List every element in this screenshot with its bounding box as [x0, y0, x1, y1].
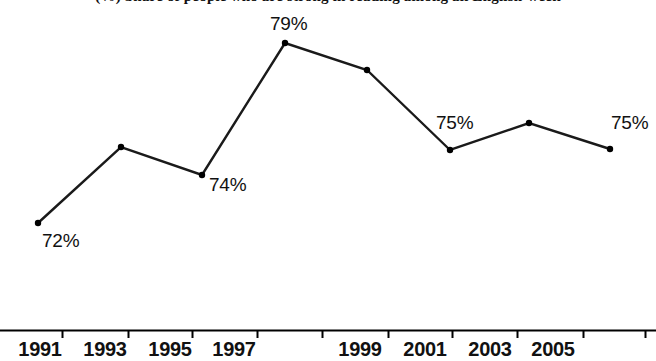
x-tick-label-1997: 1997	[194, 338, 274, 361]
data-point-marker	[199, 172, 205, 178]
x-tick-label-2005: 2005	[513, 338, 593, 361]
data-point-marker	[282, 40, 288, 46]
data-line	[38, 43, 610, 223]
data-point-marker	[364, 67, 370, 73]
data-label-2001: 75%	[436, 112, 473, 134]
data-point-marker	[118, 144, 124, 150]
chart-canvas	[0, 0, 656, 361]
data-point-marker	[526, 120, 532, 126]
line-chart: 72% 74% 79% 75% 75% 1991 1993 1995 1997 …	[0, 0, 656, 361]
data-point-marker	[607, 146, 613, 152]
data-label-1991: 72%	[42, 230, 79, 252]
data-point-marker	[447, 147, 453, 153]
chart-page: (%) Share of people who are strong in re…	[0, 0, 656, 361]
data-label-1997: 79%	[270, 13, 307, 35]
data-point-marker	[35, 220, 41, 226]
data-label-2005: 75%	[611, 112, 648, 134]
data-label-1995: 74%	[209, 174, 246, 196]
